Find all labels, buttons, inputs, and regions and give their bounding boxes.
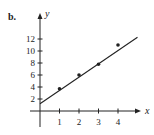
y-tick-label: 8 (31, 58, 36, 68)
fitted-line (40, 37, 138, 104)
y-tick-label: 12 (26, 34, 35, 44)
plot-series (40, 37, 138, 104)
data-point (116, 43, 120, 47)
y-tick-label: 10 (26, 46, 36, 56)
part-label: b. (8, 11, 17, 22)
y-axis-label: y (44, 8, 50, 19)
y-tick-label: 4 (31, 82, 36, 92)
axes (30, 13, 141, 127)
x-tick-label: 2 (77, 117, 82, 127)
scatter-plot: b. 123424681012 x y (0, 0, 154, 135)
y-axis-arrow-icon (38, 13, 43, 19)
x-axis-label: x (144, 105, 150, 116)
x-axis-arrow-icon (135, 109, 141, 114)
x-tick-label: 3 (96, 117, 101, 127)
y-tick-label: 6 (31, 70, 36, 80)
x-tick-label: 1 (57, 117, 62, 127)
y-tick-label: 2 (31, 94, 36, 104)
x-tick-label: 4 (116, 117, 121, 127)
